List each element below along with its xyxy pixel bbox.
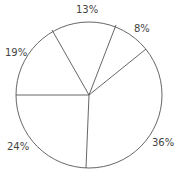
slice-label-24: 24% [7, 142, 29, 152]
slice-label-13: 13% [76, 5, 98, 15]
slice-label-8: 8% [134, 24, 150, 34]
slice-label-19: 19% [5, 48, 27, 58]
slice-label-36: 36% [152, 138, 174, 148]
